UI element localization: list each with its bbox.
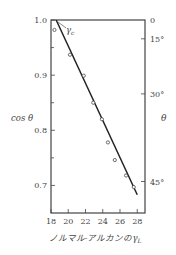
plot-frame [51, 20, 145, 213]
x-axis-label-text: ノルマル-アルカンの [49, 233, 133, 243]
y2-tick-label: 15° [150, 35, 164, 44]
x-tick-label: 26 [115, 217, 125, 226]
y2-axis-label: θ [161, 113, 167, 123]
data-point-marker [53, 28, 56, 31]
x-tick-label: 22 [80, 217, 90, 226]
data-point-marker [100, 118, 103, 121]
x-axis-label-subscript: L [136, 237, 141, 244]
y-tick-label: 0.7 [34, 181, 47, 190]
gamma-c-subscript: c [71, 29, 75, 36]
data-point-marker [106, 141, 109, 144]
y-tick-label: 0.8 [34, 126, 47, 135]
x-tick-label: 20 [63, 217, 73, 226]
plot-axes [51, 20, 145, 213]
y2-tick-label: 30° [150, 90, 164, 99]
data-point-marker [132, 185, 135, 188]
x-tick-label: 28 [132, 217, 142, 226]
y-tick-label: 1.0 [34, 16, 47, 25]
data-point-marker [82, 74, 85, 77]
y2-tick-label: 45° [150, 178, 164, 187]
data-point-marker [124, 174, 127, 177]
x-tick-label: 18 [46, 217, 56, 226]
gamma-c-annotation: γc [66, 25, 75, 36]
cos-theta-vs-gamma-chart: 1820222426281.00.90.80.7015°30°45° cos θ… [0, 0, 176, 255]
fit-line [56, 20, 137, 195]
y-axis-label: cos θ [11, 113, 33, 123]
x-axis-label: ノルマル-アルカンのγL [49, 233, 142, 244]
y2-tick-label: 0 [150, 16, 155, 25]
data-point-marker [68, 53, 71, 56]
x-tick-label: 24 [98, 217, 108, 226]
data-point-marker [113, 158, 116, 161]
data-point-marker [92, 101, 95, 104]
regression-line [56, 20, 137, 195]
y-tick-label: 0.9 [34, 71, 47, 80]
